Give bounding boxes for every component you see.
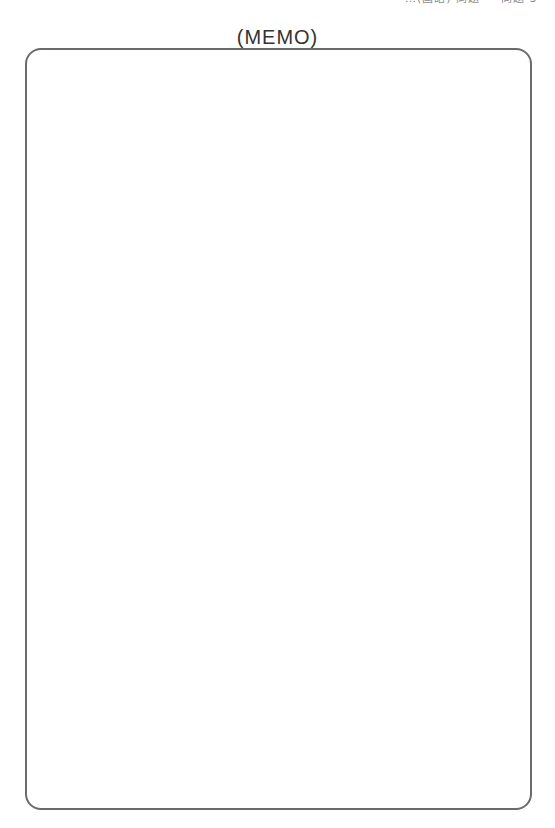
page-header-clipped: …(国語) 問題 — 問題 3 - xyxy=(367,0,547,5)
memo-title: (MEMO) xyxy=(0,25,555,49)
memo-writing-area xyxy=(25,48,532,810)
